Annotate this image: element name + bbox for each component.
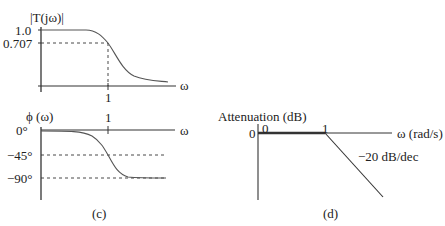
phase-x-label: ω — [180, 124, 189, 137]
magnitude-plot — [38, 27, 176, 92]
phase-plot — [41, 126, 175, 200]
att-slope-label: −20 dB/dec — [358, 150, 418, 163]
phase-y-label: ϕ (ω) — [26, 110, 53, 123]
att-xtick-0: 0 — [262, 122, 269, 135]
mag-xtick-1: 1 — [105, 91, 112, 104]
phase-xtick-1: 1 — [105, 111, 112, 124]
att-ytick-0: 0 — [249, 127, 256, 140]
phase-tick-45: −45° — [7, 149, 33, 162]
phase-tick-90: −90° — [7, 172, 33, 185]
mag-y-label: |T(jω)| — [30, 11, 64, 24]
phase-curve — [41, 131, 166, 178]
mag-x-label: ω — [180, 79, 189, 92]
att-x-label: ω (rad/s) — [397, 127, 443, 140]
att-xtick-1: 1 — [322, 122, 329, 135]
mag-tick-0707: 0.707 — [3, 37, 32, 50]
caption-d: (d) — [323, 207, 338, 220]
caption-c: (c) — [92, 207, 106, 220]
mag-curve — [41, 30, 168, 82]
att-slope-asymptote — [325, 133, 383, 197]
phase-tick-0: 0° — [16, 124, 28, 137]
